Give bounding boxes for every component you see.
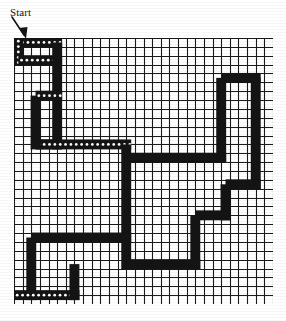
maze-canvas (14, 38, 273, 304)
path-segment (69, 264, 79, 300)
path-segment (126, 259, 200, 269)
path-segment (31, 233, 131, 243)
maze-grid (14, 38, 273, 304)
path-segment (126, 153, 226, 163)
path-segment (251, 78, 261, 189)
path-segment (195, 210, 230, 220)
path-segment (121, 144, 131, 269)
path-segment (216, 78, 226, 163)
path-segment (226, 179, 261, 189)
path-segment (31, 96, 41, 150)
maze-figure: Start (0, 0, 286, 321)
